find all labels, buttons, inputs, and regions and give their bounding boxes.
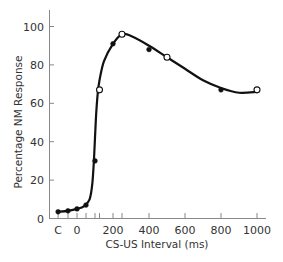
x-tick-label: 600 bbox=[175, 224, 196, 237]
axes bbox=[50, 10, 267, 219]
y-tick-label: 20 bbox=[30, 174, 44, 187]
y-tick-label: 0 bbox=[37, 213, 44, 226]
open-data-point bbox=[254, 87, 260, 93]
x-tick-label: C bbox=[54, 224, 62, 237]
open-data-point bbox=[97, 87, 103, 93]
filled-data-point bbox=[219, 87, 224, 92]
y-tick-label: 80 bbox=[30, 59, 44, 72]
x-tick-label: 800 bbox=[211, 224, 232, 237]
x-tick-label: 400 bbox=[139, 224, 160, 237]
filled-data-point bbox=[75, 207, 80, 212]
filled-data-point bbox=[93, 159, 98, 164]
filled-data-point bbox=[66, 208, 71, 213]
filled-data-point bbox=[111, 41, 116, 46]
filled-data-point bbox=[147, 47, 152, 52]
filled-data-point bbox=[56, 209, 61, 214]
x-tick-label: 1000 bbox=[243, 224, 271, 237]
y-tick-label: 60 bbox=[30, 97, 44, 110]
y-axis-title: Percentage NM Response bbox=[12, 55, 24, 188]
y-tick-label: 100 bbox=[23, 21, 44, 34]
filled-data-point bbox=[84, 203, 89, 208]
chart: 020406080100 C02004006008001000 CS-US In… bbox=[0, 0, 283, 262]
x-tick-label: 200 bbox=[103, 224, 124, 237]
open-data-point bbox=[164, 54, 170, 60]
fitted-curve bbox=[58, 34, 257, 212]
open-data-point bbox=[119, 31, 125, 37]
x-tick-label: 0 bbox=[74, 224, 81, 237]
x-ticks: C02004006008001000 bbox=[54, 213, 271, 237]
x-axis-title: CS-US Interval (ms) bbox=[106, 238, 209, 250]
data-points bbox=[56, 31, 260, 214]
y-tick-label: 40 bbox=[30, 136, 44, 149]
